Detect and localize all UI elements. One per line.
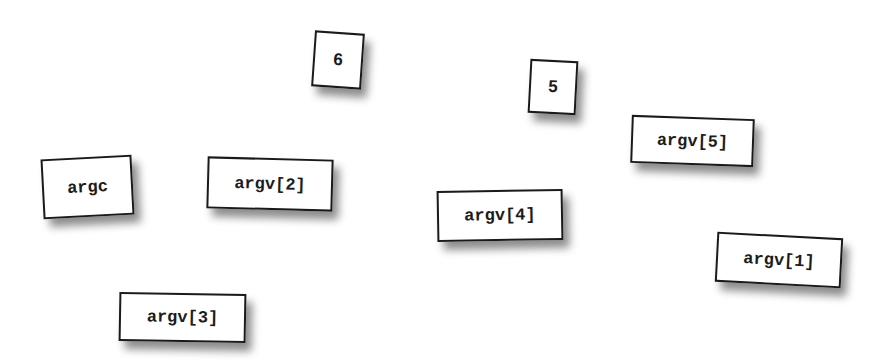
card-argv-4[interactable]: argv[4] (437, 189, 564, 242)
card-value-5[interactable]: 5 (528, 59, 579, 115)
card-argv-1[interactable]: argv[1] (715, 232, 843, 289)
card-label: argv[1] (743, 249, 815, 272)
card-label: argv[5] (656, 130, 728, 151)
card-argv-3[interactable]: argv[3] (119, 292, 247, 343)
diagram-canvas: 6 5 argv[5] argc argv[2] argv[4] argv[1]… (0, 0, 891, 360)
card-label: argv[3] (147, 307, 219, 327)
card-label: argv[2] (234, 174, 306, 195)
card-argc[interactable]: argc (40, 155, 134, 220)
card-label: 6 (333, 50, 344, 71)
card-label: argv[4] (464, 205, 536, 225)
card-label: argc (67, 176, 109, 197)
card-argv-5[interactable]: argv[5] (630, 115, 755, 167)
card-label: 5 (548, 77, 559, 97)
card-value-6[interactable]: 6 (311, 30, 365, 89)
card-argv-2[interactable]: argv[2] (206, 156, 333, 211)
